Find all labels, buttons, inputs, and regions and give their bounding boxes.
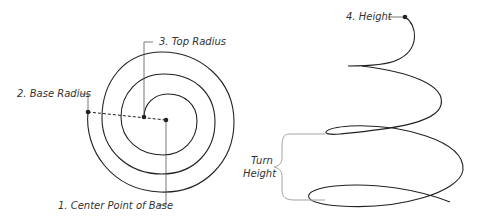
diagram-canvas: 2. Base Radius 3. Top Radius 1. Center P… <box>0 0 481 223</box>
label-height: 4. Height <box>346 11 393 22</box>
turn-height-bracket <box>274 134 325 200</box>
side-view-helix <box>309 17 463 207</box>
center-point <box>164 118 169 123</box>
top-radius-point <box>142 115 147 120</box>
radius-dashed-line <box>88 112 166 120</box>
top-view-spiral <box>88 52 234 192</box>
helix-diagram: 2. Base Radius 3. Top Radius 1. Center P… <box>0 0 481 223</box>
label-top-radius: 3. Top Radius <box>159 36 226 47</box>
base-radius-point <box>86 110 91 115</box>
leaders-top-view <box>81 42 166 205</box>
label-turn: Turn <box>251 155 273 166</box>
label-base-radius: 2. Base Radius <box>17 88 91 99</box>
label-height-turn: Height <box>243 168 277 179</box>
label-center-point: 1. Center Point of Base <box>58 200 173 211</box>
height-point <box>403 15 408 20</box>
